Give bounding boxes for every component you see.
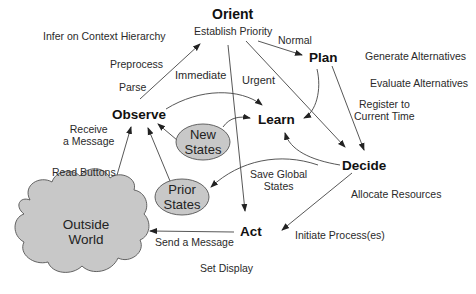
- allocate-label: Allocate Resources: [351, 188, 441, 200]
- new-states-line2: States: [176, 142, 230, 157]
- register-line1: Register to: [354, 98, 415, 110]
- urgent-label: Urgent: [242, 74, 275, 86]
- observe-node: Observe: [112, 107, 166, 122]
- receive-line1: Receive: [63, 123, 114, 135]
- orient-node: Orient: [212, 6, 253, 22]
- outside-world-label: Outside World: [56, 217, 116, 247]
- send-label: Send a Message: [155, 236, 234, 248]
- receive-label: Receive a Message: [63, 123, 114, 147]
- outside-world-line1: Outside: [56, 217, 116, 232]
- register-label: Register to Current Time: [354, 98, 415, 122]
- register-line2: Current Time: [354, 110, 415, 122]
- initiate-label: Initiate Process(es): [295, 229, 385, 241]
- generate-label: Generate Alternatives: [365, 50, 466, 62]
- plan-node: Plan: [309, 50, 338, 65]
- new-states-label: New States: [176, 127, 230, 157]
- establish-label: Establish Priority: [194, 25, 272, 37]
- parse-label: Parse: [119, 81, 146, 93]
- save-line1: Save Global: [250, 168, 307, 180]
- learn-node: Learn: [258, 112, 295, 127]
- immediate-label: Immediate: [175, 69, 226, 81]
- prior-states-label: Prior States: [155, 182, 209, 212]
- decide-node: Decide: [342, 158, 386, 173]
- save-global-label: Save Global States: [250, 168, 307, 192]
- new-states-line1: New: [176, 127, 230, 142]
- prior-states-line1: Prior: [155, 182, 209, 197]
- prior-states-line2: States: [155, 197, 209, 212]
- preprocess-label: Preprocess: [110, 58, 163, 70]
- evaluate-label: Evaluate Alternatives: [370, 77, 468, 89]
- normal-label: Normal: [278, 34, 312, 46]
- act-node: Act: [240, 224, 262, 239]
- outside-world-line2: World: [56, 232, 116, 247]
- diagram-arrows: [0, 0, 476, 294]
- save-line2: States: [250, 180, 307, 192]
- set-display-label: Set Display: [200, 262, 253, 274]
- read-buttons-label: Read Buttons: [52, 166, 116, 178]
- infer-label: Infer on Context Hierarchy: [43, 30, 166, 42]
- receive-line2: a Message: [63, 135, 114, 147]
